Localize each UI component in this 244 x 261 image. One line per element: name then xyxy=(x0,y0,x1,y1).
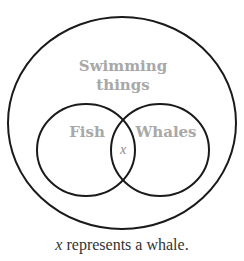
element-x-label: x xyxy=(119,142,127,157)
outer-set-label-line1: Swimming xyxy=(79,57,168,75)
fish-label: Fish xyxy=(69,123,105,141)
outer-set-swimming-things xyxy=(8,17,236,229)
whales-label: Whales xyxy=(134,123,196,141)
caption-text: represents a whale. xyxy=(62,236,188,253)
outer-set-label-line2: things xyxy=(96,76,149,94)
venn-diagram: Swimming things Fish Whales x xyxy=(0,0,244,261)
caption: x represents a whale. xyxy=(0,236,244,254)
